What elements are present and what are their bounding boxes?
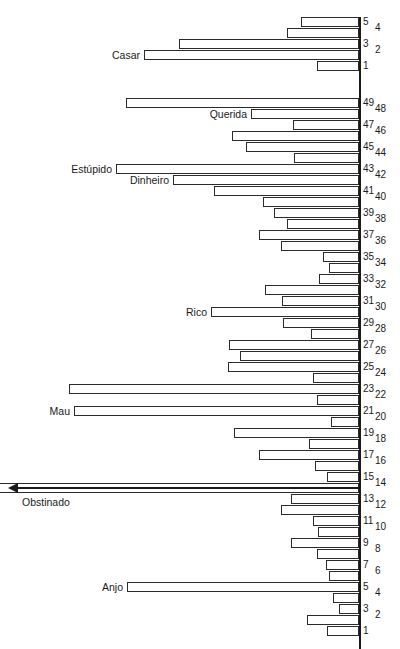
bar-main-28 [311, 329, 359, 339]
bar-main-13 [291, 494, 359, 504]
category-label-dinheiro: Dinheiro [130, 175, 169, 186]
bar-main-17 [259, 450, 359, 460]
tick-label-main-12: 12 [375, 500, 386, 510]
tick-label-main-31: 31 [363, 296, 374, 306]
bar-main-1 [327, 626, 359, 636]
tick-label-main-30: 30 [375, 302, 386, 312]
bar-main-29 [283, 318, 359, 328]
category-label-estúpido: Estúpido [71, 164, 112, 175]
tick-label-main-22: 22 [375, 390, 386, 400]
tick-label-main-15: 15 [363, 472, 374, 482]
tick-label-main-18: 18 [375, 434, 386, 444]
tick-label-main-45: 45 [363, 142, 374, 152]
tick-label-main-2: 2 [375, 610, 381, 620]
bar-main-2 [307, 615, 359, 625]
tick-label-main-33: 33 [363, 274, 374, 284]
bar-main-49 [126, 98, 359, 108]
bar-main-3 [339, 604, 359, 614]
bar-top-1 [317, 61, 359, 71]
arrow-shaft [16, 487, 359, 489]
bar-top-4 [287, 28, 359, 38]
bar-main-32 [265, 285, 359, 295]
bar-main-33 [319, 274, 359, 284]
tick-label-main-23: 23 [363, 384, 374, 394]
category-label-anjo: Anjo [102, 582, 123, 593]
tick-label-main-9: 9 [363, 538, 369, 548]
bar-main-31 [282, 296, 359, 306]
tick-label-main-14: 14 [375, 478, 386, 488]
bar-main-11 [313, 516, 359, 526]
tick-label-main-35: 35 [363, 252, 374, 262]
tick-label-main-5: 5 [363, 582, 369, 592]
bar-main-44 [294, 153, 359, 163]
bar-main-5 [127, 582, 359, 592]
tick-label-main-8: 8 [375, 544, 381, 554]
tick-label-main-6: 6 [375, 566, 381, 576]
bar-main-21 [74, 406, 359, 416]
bar-main-23 [69, 384, 359, 394]
bar-main-45 [246, 142, 359, 152]
bar-main-38 [287, 219, 359, 229]
bar-main-8 [317, 549, 359, 559]
bar-main-7 [326, 560, 359, 570]
tick-label-top-4: 4 [375, 23, 381, 33]
tick-label-main-38: 38 [375, 214, 386, 224]
tick-label-main-24: 24 [375, 368, 386, 378]
bar-top-5 [301, 17, 359, 27]
bar-main-48 [251, 109, 359, 119]
tick-label-main-10: 10 [375, 522, 386, 532]
tick-label-main-47: 47 [363, 120, 374, 130]
tick-label-main-1: 1 [363, 626, 369, 636]
bar-top-2 [144, 50, 359, 60]
bar-main-6 [329, 571, 359, 581]
tick-label-main-13: 13 [363, 494, 374, 504]
tick-label-main-40: 40 [375, 192, 386, 202]
tick-label-main-36: 36 [375, 236, 386, 246]
bar-main-18 [309, 439, 359, 449]
tick-label-main-17: 17 [363, 450, 374, 460]
tick-label-main-48: 48 [375, 104, 386, 114]
tick-label-main-16: 16 [375, 456, 386, 466]
tick-label-main-32: 32 [375, 280, 386, 290]
bar-main-46 [232, 131, 359, 141]
bar-main-42 [173, 175, 359, 185]
value-axis-top [359, 17, 361, 90]
tick-label-main-39: 39 [363, 208, 374, 218]
tick-label-main-46: 46 [375, 126, 386, 136]
tick-label-main-42: 42 [375, 170, 386, 180]
tick-label-main-49: 49 [363, 98, 374, 108]
bar-main-25 [228, 362, 359, 372]
bar-main-27 [229, 340, 359, 350]
bar-main-9 [291, 538, 359, 548]
bar-main-30 [211, 307, 359, 317]
category-label-mau: Mau [50, 406, 70, 417]
tick-label-main-44: 44 [375, 148, 386, 158]
bar-main-43 [116, 164, 359, 174]
tick-label-main-26: 26 [375, 346, 386, 356]
bar-main-36 [281, 241, 359, 251]
bar-main-41 [214, 186, 359, 196]
bar-main-24 [313, 373, 359, 383]
tick-label-main-11: 11 [363, 516, 373, 526]
tick-label-main-29: 29 [363, 318, 374, 328]
bar-main-47 [293, 120, 359, 130]
tick-label-main-34: 34 [375, 258, 386, 268]
bar-main-10 [318, 527, 359, 537]
tick-label-main-28: 28 [375, 324, 386, 334]
tick-label-main-7: 7 [363, 560, 369, 570]
tick-label-main-3: 3 [363, 604, 369, 614]
tick-label-main-4: 4 [375, 588, 381, 598]
bar-main-26 [240, 351, 359, 361]
bar-main-12 [281, 505, 359, 515]
bar-main-37 [259, 230, 359, 240]
tick-label-top-2: 2 [375, 45, 381, 55]
bar-main-34 [329, 263, 359, 273]
bar-main-15 [327, 472, 359, 482]
category-label-obstinado: Obstinado [22, 497, 70, 508]
tick-label-main-37: 37 [363, 230, 374, 240]
category-label-querida: Querida [210, 109, 247, 120]
tick-label-main-27: 27 [363, 340, 374, 350]
tick-label-main-19: 19 [363, 428, 374, 438]
bar-main-4 [333, 593, 359, 603]
bar-main-40 [263, 197, 359, 207]
